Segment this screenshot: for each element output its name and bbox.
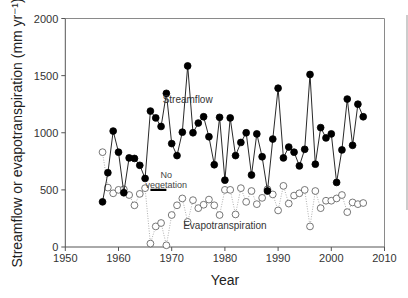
streamflow-point [195,120,202,127]
streamflow-point [355,101,362,108]
streamflow-point [179,129,186,136]
streamflow-point [339,146,346,153]
no-vegetation-label: No [161,170,173,180]
et-point [360,200,367,207]
et-point [206,196,213,203]
streamflow-point [152,114,159,121]
et-point [147,240,154,247]
streamflow-point [131,155,138,162]
evapotranspiration-label: Evapotranspiration [183,220,266,231]
et-point [344,209,351,216]
et-point [179,195,186,202]
et-point [285,200,292,207]
y-tick-label: 0 [52,241,58,253]
streamflow-point [317,124,324,131]
streamflow-point [307,71,314,78]
streamflow-point [259,153,266,160]
x-tick-label: 2000 [319,252,343,264]
streamflow-point [200,113,207,120]
et-point [317,205,324,212]
x-axis-ticks: 1950196019701980199020002010 [53,247,397,264]
streamflow-point [99,198,106,205]
streamflow-point [206,133,213,140]
et-point [243,198,250,205]
et-point [200,201,207,208]
streamflow-point [333,179,340,186]
streamflow-point [291,149,298,156]
streamflow-label: Streamflow [163,94,214,105]
series-streamflow [99,63,366,206]
streamflow-point [275,85,282,92]
streamflow-point [237,139,244,146]
chart: 1950196019701980199020002010 05001000150… [0,0,408,298]
streamflow-point [184,63,191,70]
et-point [237,185,244,192]
streamflow-point [360,113,367,120]
x-axis-title: Year [211,272,240,288]
et-point [307,223,314,230]
streamflow-line [103,66,364,202]
streamflow-point [222,177,229,184]
x-tick-label: 1970 [159,252,183,264]
streamflow-point [344,96,351,103]
et-point [248,188,255,195]
et-point [158,220,165,227]
et-point [253,201,260,208]
et-point [232,211,239,218]
streamflow-point [174,152,181,159]
streamflow-point [328,130,335,137]
streamflow-point [253,130,260,137]
et-point [301,186,308,193]
x-tick-label: 1950 [53,252,77,264]
streamflow-point [115,149,122,156]
streamflow-point [285,144,292,151]
streamflow-point [104,169,111,176]
streamflow-point [120,189,127,196]
x-tick-label: 1960 [106,252,130,264]
y-axis-title: Streamflow or evapotranspiration (mm yr⁻… [9,0,25,268]
et-point [227,186,234,193]
streamflow-point [168,140,175,147]
y-tick-label: 2000 [34,13,58,25]
et-point [211,202,218,209]
streamflow-point [110,128,117,135]
et-point [174,202,181,209]
et-point [259,194,266,201]
y-tick-label: 1500 [34,70,58,82]
streamflow-point [280,154,287,161]
et-point [168,212,175,219]
et-point [190,197,197,204]
streamflow-point [243,129,250,136]
et-point [136,190,143,197]
streamflow-point [296,162,303,169]
streamflow-point [147,108,154,115]
y-tick-label: 500 [40,184,58,196]
et-point [280,182,287,189]
et-point [275,207,282,214]
x-tick-label: 1990 [266,252,290,264]
streamflow-point [312,161,319,168]
streamflow-point [264,188,271,195]
streamflow-point [227,114,234,121]
et-point [216,212,223,219]
streamflow-point [136,162,143,169]
streamflow-point [349,142,356,149]
et-point [312,188,319,195]
y-tick-label: 1000 [34,127,58,139]
streamflow-point [216,114,223,121]
x-tick-label: 2010 [372,252,396,264]
et-point [131,202,138,209]
et-point [99,149,106,156]
streamflow-point [158,123,165,130]
et-point [339,192,346,199]
streamflow-point [190,129,197,136]
streamflow-point [211,161,218,168]
streamflow-point [248,172,255,179]
streamflow-point [301,146,308,153]
y-axis-ticks: 0500100015002000 [34,13,65,254]
streamflow-point [232,152,239,159]
streamflow-point [269,136,276,143]
x-tick-label: 1980 [213,252,237,264]
et-point [163,242,170,249]
